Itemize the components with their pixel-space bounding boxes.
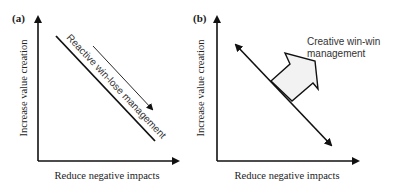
panel-a: (a) Increase value creation Reduce negat… (12, 12, 178, 181)
win-win-block-arrow-icon (271, 53, 318, 101)
panel-b-annotation-line1: Creative win-win (307, 36, 380, 47)
figure-canvas: (a) Increase value creation Reduce negat… (0, 0, 397, 189)
panel-a-diagonal-label: Reactive win-lose management (65, 32, 169, 141)
panel-b-label: (b) (193, 12, 207, 25)
panel-a-label: (a) (12, 12, 25, 25)
panel-a-y-axis-label: Increase value creation (18, 39, 29, 137)
figure-svg: (a) Increase value creation Reduce negat… (0, 0, 397, 189)
panel-a-x-axis-label: Reduce negative impacts (55, 170, 160, 181)
panel-b-annotation-line2: management (307, 48, 366, 59)
panel-b-x-axis-label: Reduce negative impacts (235, 170, 340, 181)
panel-b-tradeoff-line (236, 45, 331, 145)
panel-b-y-axis-label: Increase value creation (195, 39, 206, 137)
panel-b: (b) Increase value creation Reduce negat… (193, 12, 380, 181)
panel-a-tradeoff-line (56, 36, 155, 141)
